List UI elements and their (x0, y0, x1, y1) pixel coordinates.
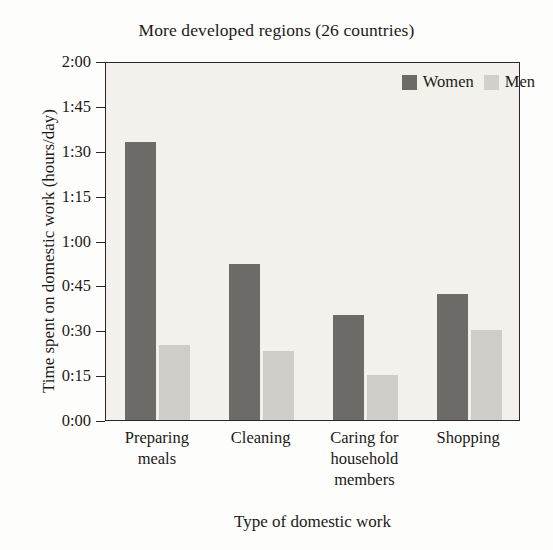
legend-label-men: Men (505, 72, 535, 92)
y-tick-label: 0:15 (31, 366, 91, 386)
y-tick-label: 1:15 (31, 187, 91, 207)
y-tick-label: 0:45 (31, 276, 91, 296)
y-tick-label: 2:00 (31, 52, 91, 72)
legend-swatch-women-icon (402, 75, 417, 90)
y-tick-mark (96, 62, 105, 63)
y-tick-mark (96, 152, 105, 153)
y-tick-label: 0:30 (31, 321, 91, 341)
bar-men-3[interactable] (471, 330, 502, 420)
bar-women-1[interactable] (229, 264, 260, 420)
y-tick-mark (96, 197, 105, 198)
x-axis-label: Type of domestic work (105, 512, 520, 532)
bar-men-0[interactable] (159, 345, 190, 420)
legend-item-women[interactable]: Women (402, 72, 474, 92)
legend-swatch-men-icon (484, 75, 499, 90)
plot-area (105, 62, 520, 421)
y-tick-mark (96, 286, 105, 287)
legend-label-women: Women (423, 72, 474, 92)
bar-women-3[interactable] (437, 294, 468, 420)
y-tick-mark (96, 107, 105, 108)
bar-men-2[interactable] (367, 375, 398, 420)
bar-women-0[interactable] (125, 142, 156, 420)
x-category-label: Shopping (406, 427, 530, 448)
y-tick-label: 0:00 (31, 411, 91, 431)
bar-women-2[interactable] (333, 315, 364, 420)
y-tick-label: 1:45 (31, 97, 91, 117)
y-tick-label: 1:00 (31, 232, 91, 252)
bar-men-1[interactable] (263, 351, 294, 420)
chart-page: s thing to note is that these sex work l… (0, 0, 553, 550)
bars-layer (106, 63, 519, 420)
legend: Women Men (402, 72, 535, 92)
chart-title: More developed regions (26 countries) (0, 20, 553, 41)
y-tick-mark (96, 376, 105, 377)
y-tick-mark (96, 331, 105, 332)
legend-item-men[interactable]: Men (484, 72, 535, 92)
y-tick-mark (96, 421, 105, 422)
y-tick-mark (96, 242, 105, 243)
y-tick-label: 1:30 (31, 142, 91, 162)
